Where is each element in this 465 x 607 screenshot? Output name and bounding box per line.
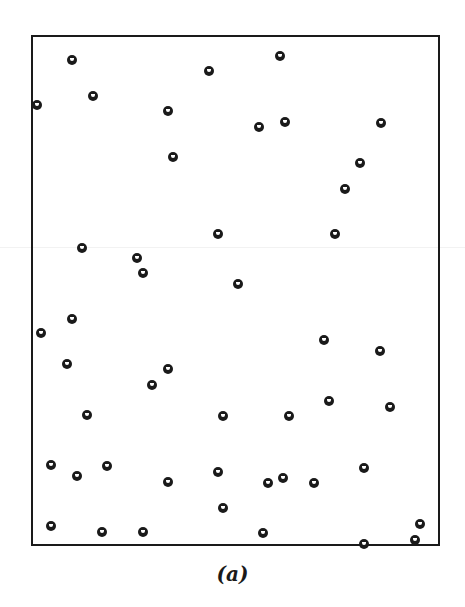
- data-point-marker: [46, 521, 56, 531]
- plot-frame: [31, 35, 440, 546]
- data-point-marker: [32, 100, 42, 110]
- data-point-marker: [218, 411, 228, 421]
- data-point-marker: [97, 527, 107, 537]
- data-point-marker: [102, 461, 112, 471]
- figure-caption: (a): [0, 562, 465, 586]
- data-point-marker: [263, 478, 273, 488]
- data-point-marker: [284, 411, 294, 421]
- data-point-marker: [330, 229, 340, 239]
- data-point-marker: [72, 471, 82, 481]
- data-point-marker: [62, 359, 72, 369]
- data-point-marker: [415, 519, 425, 529]
- data-point-marker: [204, 66, 214, 76]
- data-point-marker: [163, 477, 173, 487]
- data-point-marker: [275, 51, 285, 61]
- data-point-marker: [67, 55, 77, 65]
- data-point-marker: [258, 528, 268, 538]
- data-point-marker: [376, 118, 386, 128]
- data-point-marker: [359, 539, 369, 549]
- data-point-marker: [355, 158, 365, 168]
- data-point-marker: [340, 184, 350, 194]
- data-point-marker: [163, 106, 173, 116]
- data-point-marker: [168, 152, 178, 162]
- data-point-marker: [319, 335, 329, 345]
- data-point-marker: [36, 328, 46, 338]
- data-point-marker: [324, 396, 334, 406]
- data-point-marker: [375, 346, 385, 356]
- data-point-marker: [138, 268, 148, 278]
- data-point-marker: [233, 279, 243, 289]
- data-point-marker: [88, 91, 98, 101]
- data-point-marker: [385, 402, 395, 412]
- data-point-marker: [77, 243, 87, 253]
- data-point-marker: [218, 503, 228, 513]
- data-point-marker: [309, 478, 319, 488]
- data-point-marker: [132, 253, 142, 263]
- data-point-marker: [46, 460, 56, 470]
- data-point-marker: [213, 467, 223, 477]
- data-point-marker: [213, 229, 223, 239]
- data-point-marker: [67, 314, 77, 324]
- data-point-marker: [410, 535, 420, 545]
- data-point-marker: [138, 527, 148, 537]
- data-point-marker: [278, 473, 288, 483]
- data-point-marker: [280, 117, 290, 127]
- data-point-marker: [254, 122, 264, 132]
- data-point-marker: [163, 364, 173, 374]
- data-point-marker: [82, 410, 92, 420]
- data-point-marker: [359, 463, 369, 473]
- data-point-marker: [147, 380, 157, 390]
